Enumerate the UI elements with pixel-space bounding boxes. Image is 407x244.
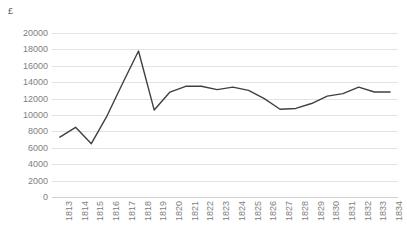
x-axis-tick-label: 1828 <box>300 201 310 221</box>
x-axis-tick-label: 1817 <box>127 201 137 221</box>
y-axis-tick-label: 10000 <box>23 110 48 120</box>
line-chart: £ 20000180001600014000120001000080006000… <box>0 0 407 244</box>
x-axis-tick-label: 1821 <box>190 201 200 221</box>
y-axis-tick-label: 12000 <box>23 94 48 104</box>
x-axis-tick-label: 1832 <box>363 201 373 221</box>
y-axis-unit-caption: £ <box>8 6 13 16</box>
x-axis-tick-label: 1819 <box>158 201 168 221</box>
y-axis-tick-label: 6000 <box>28 143 48 153</box>
x-axis-tick-label: 1823 <box>221 201 231 221</box>
x-axis-tick-label: 1830 <box>331 201 341 221</box>
x-axis-tick-label: 1831 <box>347 201 357 221</box>
x-axis-tick-label: 1827 <box>284 201 294 221</box>
x-axis-tick-label: 1815 <box>95 201 105 221</box>
x-axis-tick-label: 1813 <box>64 201 74 221</box>
y-axis-tick-label: 0 <box>43 192 48 202</box>
x-axis-tick-label: 1829 <box>316 201 326 221</box>
series-line <box>60 51 390 144</box>
x-axis-tick-label: 1825 <box>253 201 263 221</box>
x-axis-tick-label: 1826 <box>268 201 278 221</box>
plot-area <box>52 33 398 197</box>
x-axis-tick-label: 1834 <box>394 201 404 221</box>
y-axis-tick-label: 2000 <box>28 176 48 186</box>
y-axis-tick-label: 16000 <box>23 61 48 71</box>
x-axis-tick-label: 1816 <box>111 201 121 221</box>
x-axis-tick-label: 1824 <box>237 201 247 221</box>
y-axis-tick-label: 20000 <box>23 28 48 38</box>
x-axis-tick-label: 1814 <box>80 201 90 221</box>
y-axis-tick-label: 14000 <box>23 77 48 87</box>
y-axis-tick-labels: 2000018000160001400012000100008000600040… <box>0 33 48 197</box>
x-axis-tick-label: 1818 <box>143 201 153 221</box>
x-axis-tick-label: 1820 <box>174 201 184 221</box>
x-axis-tick-labels: 1813181418151816181718181819182018211822… <box>52 197 398 244</box>
x-axis-tick-label: 1822 <box>205 201 215 221</box>
x-axis-tick-label: 1833 <box>378 201 388 221</box>
y-axis-tick-label: 8000 <box>28 126 48 136</box>
y-axis-tick-label: 4000 <box>28 159 48 169</box>
y-axis-tick-label: 18000 <box>23 44 48 54</box>
series-layer <box>52 33 398 197</box>
